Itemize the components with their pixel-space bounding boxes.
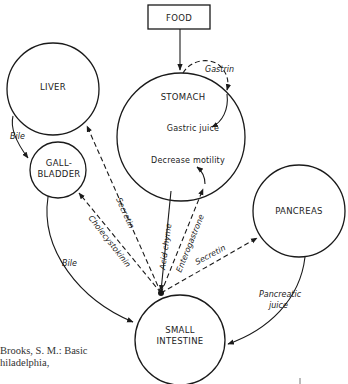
stomach-node: STOMACH Gastric juice Decrease motility	[117, 73, 245, 201]
secretin-to-pancreas-arrow	[161, 238, 257, 293]
gastric-juice-label: Gastric juice	[167, 124, 219, 133]
pancreatic-juice-label-line1: Pancreatic	[259, 290, 302, 299]
secretin-pancreas-label: Secretin	[194, 243, 227, 266]
stomach-label: STOMACH	[161, 92, 206, 102]
pancreas-node: PANCREAS	[253, 165, 345, 257]
acid-chyme-label: Acid chyme	[158, 223, 174, 271]
gallbladder-node: GALL- BLADDER	[30, 142, 86, 198]
gallbladder-label-line1: GALL-	[46, 158, 72, 168]
gastrin-to-gastric-juice-arrow	[212, 94, 227, 127]
liver-node: LIVER	[7, 43, 99, 135]
pancreas-label: PANCREAS	[275, 206, 323, 216]
pancreatic-juice-arrow	[228, 257, 305, 344]
small-intestine-label-line2: INTESTINE	[157, 336, 204, 346]
food-node: FOOD	[148, 5, 210, 29]
bile-label-upper: Bile	[10, 132, 25, 141]
enterogastrone-to-motility-arrow	[197, 167, 205, 184]
citation-line1: Brooks, S. M.: Basic	[0, 345, 88, 356]
digestive-hormone-diagram: FOOD LIVER STOMACH Gastric juice Decreas…	[0, 0, 348, 384]
decrease-motility-label: Decrease motility	[151, 156, 225, 165]
pancreatic-juice-label-line2: juice	[268, 301, 288, 310]
gastrin-label: Gastrin	[205, 65, 234, 74]
small-intestine-node: SMALL INTESTINE	[135, 295, 225, 384]
citation-line2: hiladelphia,	[0, 357, 49, 368]
food-label: FOOD	[166, 13, 192, 23]
bile-label-lower: Bile	[62, 259, 77, 268]
small-intestine-label-line1: SMALL	[165, 325, 195, 335]
secretin-liver-label: Secretin	[114, 196, 136, 230]
liver-label: LIVER	[40, 82, 66, 92]
gallbladder-label-line2: BLADDER	[37, 169, 80, 179]
